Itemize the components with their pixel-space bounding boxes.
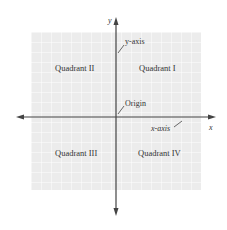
x-axis-callout: x-axis xyxy=(150,124,170,133)
origin-callout: Origin xyxy=(125,99,146,108)
quadrant-ii-label: Quadrant II xyxy=(55,63,95,73)
y-axis-letter: y xyxy=(107,16,112,25)
y-axis-down-arrow-icon xyxy=(114,208,119,216)
quadrant-i-label: Quadrant I xyxy=(139,63,176,73)
quadrant-iv-label: Quadrant IV xyxy=(138,148,182,158)
x-axis-letter: x xyxy=(208,123,213,132)
y-axis-up-arrow-icon xyxy=(114,17,119,25)
coordinate-plane-diagram: y x y-axis Origin x-axis Quadrant II Qua… xyxy=(0,0,227,230)
quadrant-iii-label: Quadrant III xyxy=(55,148,97,158)
x-axis-right-arrow-icon xyxy=(208,115,216,120)
x-axis-left-arrow-icon xyxy=(16,115,24,120)
y-axis-callout: y-axis xyxy=(125,37,145,46)
